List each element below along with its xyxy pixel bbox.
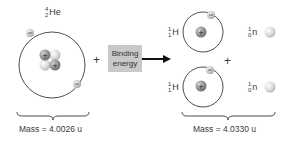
neutron-icon: [265, 82, 276, 93]
reactant-mass-label: Mass = 4.0026 u: [19, 124, 82, 134]
neutron-icon: [40, 60, 51, 71]
neutron-icon: [265, 27, 276, 38]
svg-text:+: +: [198, 29, 204, 37]
reaction-arrow: [142, 55, 171, 63]
binding-energy-line2: energy: [108, 59, 142, 69]
products-mass-label: Mass = 4.0330 u: [193, 124, 256, 134]
electron-icon: [207, 11, 215, 19]
hydrogen-label-top: 11H: [168, 26, 179, 38]
electron-icon: [206, 66, 214, 74]
helium-nucleus: + +: [40, 50, 61, 71]
neutron-label-top: 10n: [248, 26, 257, 38]
svg-text:+: +: [42, 52, 48, 60]
electron-icon: [73, 80, 81, 88]
diagram-graphics: + + + +: [0, 0, 291, 141]
svg-text:+: +: [52, 62, 58, 70]
plus-sign-products: +: [224, 55, 231, 67]
hydrogen-label-bottom: 11H: [168, 81, 179, 93]
helium-atom: + +: [19, 29, 85, 98]
svg-text:+: +: [198, 83, 204, 91]
electron-icon: [26, 29, 34, 37]
right-brace: [182, 112, 275, 120]
plus-sign: +: [93, 54, 100, 66]
neutron-icon: [50, 50, 61, 61]
helium-label: 42He: [45, 6, 61, 18]
binding-energy-box: Binding energy: [108, 45, 142, 72]
hydrogen-atom-bottom: +: [183, 66, 223, 107]
left-brace: [17, 112, 89, 120]
hydrogen-atom-top: +: [183, 11, 223, 52]
neutron-label-bottom: 10n: [248, 81, 257, 93]
binding-energy-line1: Binding: [108, 49, 142, 59]
